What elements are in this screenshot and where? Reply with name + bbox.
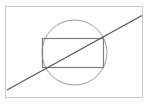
- geometry-figure: [0, 0, 152, 107]
- figure-background: [0, 0, 152, 107]
